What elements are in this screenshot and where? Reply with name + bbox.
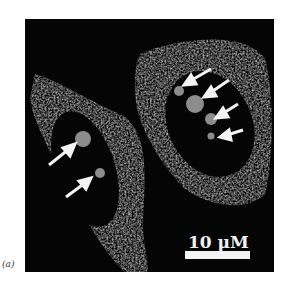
panel-label: (a) <box>2 259 14 269</box>
nuclear-body <box>95 168 105 178</box>
nuclear-body <box>186 95 204 113</box>
scale-bar-label: 10 μM <box>188 232 249 252</box>
nuclear-body <box>75 131 91 147</box>
scale-bar <box>185 251 250 259</box>
nuclear-body <box>208 133 215 140</box>
micrograph-image: 10 μM <box>25 19 274 272</box>
nuclear-body <box>174 86 184 96</box>
